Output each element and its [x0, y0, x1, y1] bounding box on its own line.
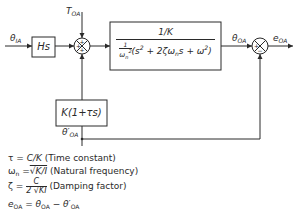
sum1-sign-bottom: +: [79, 46, 84, 53]
feedback-signal-label: θ′OA: [62, 128, 78, 138]
plant-output-label: θOA: [232, 34, 246, 44]
plant-denominator: 1 ωn2 (s2 + 2ζωns + ω2): [116, 39, 215, 60]
input-label: θIA: [10, 34, 21, 44]
plant-transfer-function: 1/K 1 ωn2 (s2 + 2ζωns + ω2): [112, 28, 219, 60]
error-label: eOA: [273, 34, 287, 44]
legend-damping-factor: ζ = C2 √KI (Damping factor): [8, 178, 126, 195]
legend-error-definition: eOA = θOA − θ′OA: [8, 200, 79, 210]
sum2-sign-bottom: −: [257, 47, 262, 54]
legend-time-constant: τ = C/K (Time constant): [8, 154, 116, 163]
disturbance-label: TOA: [66, 7, 80, 17]
plant-numerator: 1/K: [112, 28, 219, 39]
hs-block-label: Hs: [32, 42, 55, 52]
feedback-block-label: K(1+τs): [56, 108, 107, 118]
legend-natural-frequency: ωn =√K/I (Natural frequency): [8, 167, 138, 177]
